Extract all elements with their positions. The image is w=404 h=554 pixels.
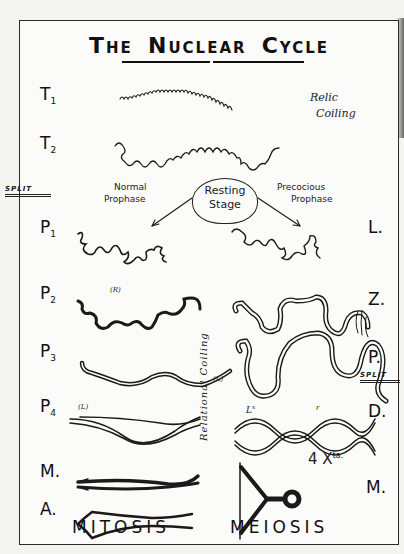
mitotic-metaphase bbox=[78, 476, 198, 484]
split-label-right: SPLIT bbox=[360, 371, 400, 383]
meiosis-mark: (L) bbox=[213, 375, 223, 383]
leptotene-coil bbox=[232, 229, 320, 260]
meiotic-bivalent-ring bbox=[285, 492, 299, 506]
stage-label-pachytene: P. bbox=[368, 347, 381, 367]
relic-label: Relic bbox=[310, 91, 338, 104]
stage-label-zygotene: Z. bbox=[368, 289, 385, 309]
t1-relic-coil bbox=[120, 90, 232, 110]
diagram-frame: THE NUCLEAR CYCLE bbox=[19, 20, 399, 545]
resting-label: Resting bbox=[193, 184, 257, 198]
chiasma-mark-r: r bbox=[316, 404, 319, 412]
chiasmata-count: 4 Xta. bbox=[308, 449, 343, 466]
normal-prophase-label: Normal Prophase bbox=[104, 181, 147, 205]
stage-label-p2: P2 bbox=[40, 283, 56, 305]
split-label-left: SPLIT bbox=[5, 185, 51, 197]
stage-label-leptotene: L. bbox=[368, 217, 383, 237]
stage-label-a-mitosis: A. bbox=[40, 499, 57, 519]
diplotene-strand-1 bbox=[235, 419, 375, 439]
meiosis-label: MEIOSIS bbox=[230, 517, 328, 537]
resting-stage-bubble: Resting Stage bbox=[192, 178, 258, 224]
p1-coil bbox=[78, 233, 166, 264]
stage-label-p1: P1 bbox=[40, 217, 56, 239]
stage-label-diplotene: D. bbox=[368, 401, 387, 421]
pachytene-pairing bbox=[238, 333, 386, 401]
p2-chromosome bbox=[78, 298, 200, 329]
stage-label-m-meiosis: M. bbox=[366, 477, 386, 497]
stage-label-t2: T2 bbox=[40, 133, 56, 155]
p4-chromatid-a bbox=[70, 417, 200, 443]
stage-label: Stage bbox=[193, 198, 257, 212]
stage-label-p4: P4 bbox=[40, 396, 56, 418]
precocious-prophase-label: Precocious Prophase bbox=[277, 181, 332, 205]
stage-label-t1: T1 bbox=[40, 84, 56, 106]
stage-label-p3: P3 bbox=[40, 341, 56, 363]
t2-coil bbox=[115, 143, 279, 170]
p4-mark: (L) bbox=[78, 403, 88, 411]
chiasma-label: Lx bbox=[246, 403, 255, 415]
coiling-label: Coiling bbox=[316, 107, 356, 120]
relational-coiling-label: Relational Coiling bbox=[198, 332, 209, 441]
p2-mark: (R) bbox=[110, 286, 121, 294]
arrow-normal-prophase bbox=[152, 198, 192, 226]
stage-label-m-mitosis: M. bbox=[40, 461, 60, 481]
mitosis-label: MITOSIS bbox=[72, 517, 170, 537]
